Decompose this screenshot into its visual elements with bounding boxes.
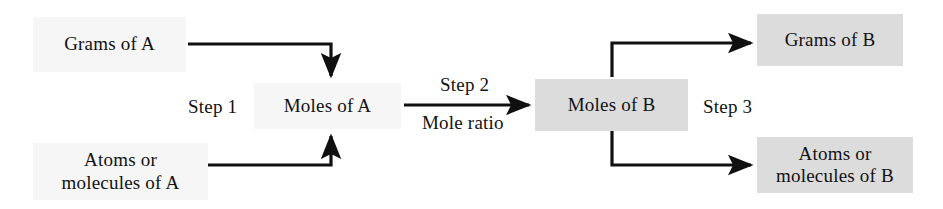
node-grams-of-a: Grams of A [33,17,186,72]
node-atoms-or-molecules-of-b: Atoms or molecules of B [757,137,913,193]
node-atoms-or-molecules-of-a: Atoms or molecules of A [33,143,208,200]
stoichiometry-flow-diagram: Grams of A Atoms or molecules of A Moles… [0,0,943,209]
node-moles-of-a-label: Moles of A [284,95,372,117]
node-grams-of-b-label: Grams of B [785,29,876,51]
step-3-label: Step 3 [703,96,752,118]
arrow-atoms-a-to-moles-a [208,136,331,165]
arrow-moles-b-to-atoms-b [612,131,751,165]
mole-ratio-label: Mole ratio [422,112,504,134]
node-moles-of-b-label: Moles of B [568,94,656,116]
node-moles-of-b: Moles of B [535,79,688,131]
step-1-label: Step 1 [188,96,237,118]
node-atoms-or-molecules-of-a-label: Atoms or molecules of A [62,149,180,194]
arrow-grams-a-to-moles-a [188,44,331,76]
step-2-label: Step 2 [440,74,489,96]
node-moles-of-a: Moles of A [254,83,401,129]
node-grams-of-b: Grams of B [757,14,903,66]
node-grams-of-a-label: Grams of A [64,33,155,55]
arrow-moles-b-to-grams-b [612,43,751,77]
node-atoms-or-molecules-of-b-label: Atoms or molecules of B [776,143,894,188]
